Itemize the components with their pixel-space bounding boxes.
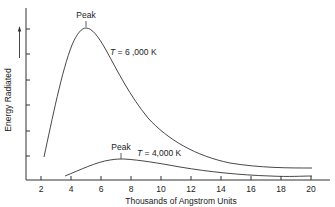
up-arrow-icon [18, 26, 21, 58]
svg-text:14: 14 [216, 184, 226, 194]
svg-text:12: 12 [186, 184, 196, 194]
series-label-4000k: T = 4,000 K [137, 148, 182, 158]
peak-label-6000k: Peak [76, 10, 96, 20]
series-label-6000k: T = 6 ,000 K [110, 47, 157, 57]
y-ticks [26, 29, 30, 156]
svg-text:16: 16 [246, 184, 256, 194]
x-tick-labels: 2 4 6 8 10 12 14 16 18 20 [39, 184, 316, 194]
svg-text:10: 10 [156, 184, 166, 194]
curve-6000k [44, 28, 312, 168]
blackbody-radiation-chart: 2 4 6 8 10 12 14 16 18 20 Thousands of A… [0, 0, 335, 207]
svg-text:18: 18 [276, 184, 286, 194]
x-axis-label: Thousands of Angstrom Units [125, 196, 237, 206]
svg-text:2: 2 [39, 184, 44, 194]
svg-text:6: 6 [99, 184, 104, 194]
svg-text:8: 8 [129, 184, 134, 194]
y-axis-label: Energy Radiated [3, 68, 13, 132]
x-ticks [41, 176, 311, 180]
svg-text:4: 4 [69, 184, 74, 194]
peak-label-4000k: Peak [111, 142, 131, 152]
svg-text:20: 20 [306, 184, 316, 194]
curve-4000k [65, 159, 312, 176]
